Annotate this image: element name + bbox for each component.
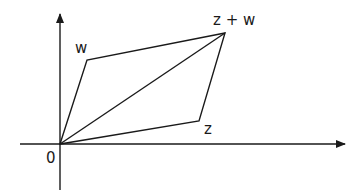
label-origin: 0 (46, 149, 56, 167)
parallelogram-diagram: w z + w z 0 (0, 0, 361, 193)
label-z: z (204, 120, 212, 138)
label-z-plus-w: z + w (213, 11, 255, 29)
label-w: w (75, 39, 87, 57)
